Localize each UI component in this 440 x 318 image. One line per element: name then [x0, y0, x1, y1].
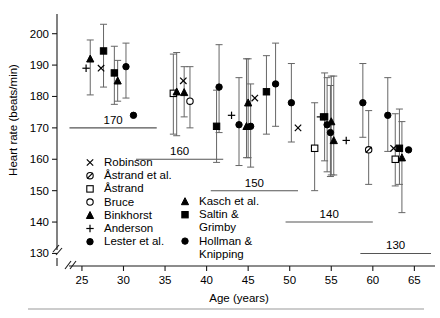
legend-symbol-triangle: [181, 198, 188, 205]
data-point-circle: [236, 122, 242, 128]
x-tick-label: 25: [76, 274, 89, 286]
x-tick-label: 30: [117, 274, 130, 286]
reference-line-label: 140: [320, 208, 339, 220]
legend-label: Saltin &: [199, 208, 239, 220]
data-point-circle: [216, 84, 222, 90]
data-point-circle: [360, 100, 366, 106]
data-point-square: [263, 89, 269, 95]
data-point-open-square: [311, 145, 317, 151]
x-tick-label: 40: [200, 274, 213, 286]
chart-canvas: 1301401501601701801902002530354045505560…: [0, 0, 440, 318]
legend-symbol-open-square: [87, 186, 93, 192]
x-axis-break-icon: [65, 261, 71, 269]
legend-label: Grimby: [199, 221, 236, 233]
data-point-square: [321, 114, 327, 120]
data-point-plus: [228, 112, 235, 119]
data-point-circle: [324, 122, 330, 128]
x-tick-label: 35: [159, 274, 172, 286]
data-point-circle: [405, 147, 411, 153]
data-point-square: [213, 123, 219, 129]
y-axis-title: Heart rate (beats/min): [7, 64, 19, 176]
reference-line-label: 160: [170, 145, 189, 157]
data-point-open-circle: [187, 98, 193, 104]
data-point-circle: [385, 112, 391, 118]
legend-label: Binkhorst: [104, 209, 153, 221]
legend-label: Anderson: [104, 222, 153, 234]
y-tick-label: 190: [30, 59, 49, 71]
x-tick-label: 60: [366, 274, 379, 286]
legend-symbol-x: [87, 159, 93, 165]
data-point-square: [100, 48, 106, 54]
legend-symbol-circle: [87, 239, 93, 245]
data-point-x: [252, 95, 258, 101]
data-point-triangle: [87, 55, 94, 62]
y-tick-label: 150: [30, 185, 49, 197]
legend-label: Lester et al.: [104, 235, 164, 247]
legend-label: Robinson: [104, 156, 153, 168]
y-axis-break-icon: [53, 245, 59, 252]
legend-symbol-open-circle: [87, 199, 93, 205]
data-point-circle: [288, 100, 294, 106]
data-point-square: [396, 145, 402, 151]
scatter-plot: 1301401501601701801902002530354045505560…: [0, 0, 440, 318]
chart-page: 1301401501601701801902002530354045505560…: [0, 0, 440, 318]
reference-line-label: 130: [386, 239, 405, 251]
data-point-circle: [272, 81, 278, 87]
legend-symbol-circle: [182, 238, 188, 244]
reference-line-label: 170: [104, 114, 123, 126]
legend-label: Knipping: [199, 248, 244, 260]
y-tick-label: 200: [30, 28, 49, 40]
data-point-square: [111, 70, 117, 76]
legend-symbol-plus: [86, 225, 93, 232]
x-tick-label: 55: [325, 274, 338, 286]
x-axis-break-icon: [70, 261, 76, 269]
data-point-circle: [130, 112, 136, 118]
x-axis-title: Age (years): [209, 292, 269, 304]
y-tick-label: 180: [30, 90, 49, 102]
legend-label: Hollman &: [199, 235, 252, 247]
x-tick-label: 45: [242, 274, 255, 286]
legend-label: Åstrand: [104, 182, 144, 194]
legend-label: Åstrand et al.: [104, 169, 172, 181]
data-point-slashed-circle: [365, 147, 371, 153]
data-point-triangle: [114, 77, 121, 84]
y-tick-label: 160: [30, 153, 49, 165]
data-point-circle: [123, 63, 129, 69]
x-tick-label: 50: [283, 274, 296, 286]
reference-line-label: 150: [245, 177, 264, 189]
data-point-x: [295, 125, 301, 131]
data-point-circle: [327, 129, 333, 135]
x-tick-label: 65: [408, 274, 421, 286]
data-point-plus: [343, 137, 350, 144]
legend-label: Kasch et al.: [199, 195, 259, 207]
legend-symbol-slashed-circle: [87, 173, 93, 179]
legend-label: Bruce: [104, 196, 134, 208]
y-tick-label: 130: [30, 247, 49, 259]
data-point-x: [180, 78, 186, 84]
legend-symbol-square: [182, 212, 188, 218]
data-point-open-square: [392, 156, 398, 162]
data-point-plus: [82, 65, 89, 72]
y-tick-label: 170: [30, 122, 49, 134]
y-tick-label: 140: [30, 216, 49, 228]
data-point-circle: [247, 123, 253, 129]
data-point-triangle: [181, 89, 188, 96]
legend-symbol-triangle: [86, 212, 93, 219]
